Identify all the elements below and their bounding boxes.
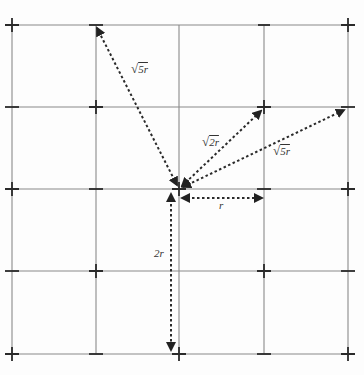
sqrt-radicand: 2r — [209, 136, 219, 148]
cross-mark — [89, 100, 103, 114]
cross-mark — [5, 347, 19, 361]
label-r: r — [219, 199, 223, 211]
cross-mark — [89, 264, 103, 278]
sqrt-radicand: 5r — [280, 145, 290, 157]
label-2r: 2r — [154, 247, 164, 259]
cross-mark — [5, 18, 19, 32]
label-sqrt5r-right: √5r — [273, 143, 290, 159]
cross-mark — [5, 182, 19, 196]
cross-mark — [341, 182, 355, 196]
origin-cross-mark — [172, 182, 186, 196]
cross-mark — [257, 264, 271, 278]
lattice-svg — [0, 0, 364, 375]
label-sqrt2r: √2r — [202, 134, 219, 150]
label-sqrt5r-upper: √5r — [131, 61, 148, 77]
sqrt-radicand: 5r — [138, 63, 148, 75]
cross-mark — [341, 347, 355, 361]
lattice-diagram: r 2r √5r √2r √5r — [0, 0, 364, 375]
cross-mark — [341, 18, 355, 32]
cross-mark — [172, 347, 186, 361]
vector-sqrt2r — [182, 111, 261, 186]
